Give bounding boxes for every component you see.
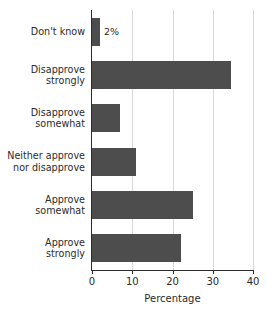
bar — [92, 191, 193, 219]
bar — [92, 18, 100, 46]
bar-value-label: 2% — [104, 27, 119, 37]
plot-area: 2% — [92, 10, 253, 270]
bar — [92, 234, 181, 262]
x-tick-label: 10 — [117, 276, 147, 288]
bar-row — [92, 104, 253, 132]
category-label: Disapprove somewhat — [1, 107, 85, 130]
x-tick-label: 30 — [198, 276, 228, 288]
category-label: Don't know — [1, 26, 85, 38]
gridline — [253, 10, 254, 270]
bar-row — [92, 191, 253, 219]
y-axis-line — [91, 10, 92, 271]
x-tick-mark — [173, 270, 174, 274]
bar — [92, 61, 231, 89]
gridline — [132, 10, 133, 270]
gridline — [173, 10, 174, 270]
x-tick-label: 20 — [158, 276, 188, 288]
bar-row — [92, 148, 253, 176]
bar — [92, 148, 136, 176]
x-axis-title: Percentage — [92, 293, 253, 305]
x-tick-mark — [132, 270, 133, 274]
bar-chart: 2% Don't knowDisapprove stronglyDisappro… — [0, 0, 267, 314]
category-label: Approve somewhat — [1, 194, 85, 217]
bar-row: 2% — [92, 18, 253, 46]
gridline — [213, 10, 214, 270]
x-tick-mark — [92, 270, 93, 274]
category-label: Neither approve nor disapprove — [1, 150, 85, 173]
bar — [92, 104, 120, 132]
bar-row — [92, 61, 253, 89]
x-tick-mark — [213, 270, 214, 274]
category-label: Disapprove strongly — [1, 64, 85, 87]
x-tick-label: 0 — [77, 276, 107, 288]
bar-row — [92, 234, 253, 262]
category-label: Approve strongly — [1, 237, 85, 260]
x-tick-label: 40 — [238, 276, 267, 288]
x-tick-mark — [253, 270, 254, 274]
